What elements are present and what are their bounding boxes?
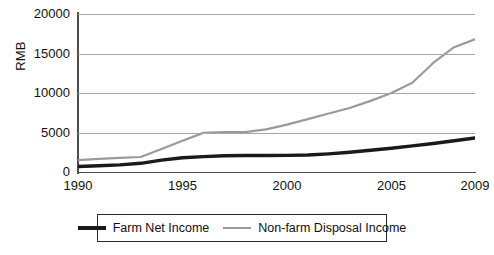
y-axis-tick-labels: 20000150001000050000: [14, 0, 70, 200]
y-tick-label: 20000: [18, 9, 70, 19]
x-tick-label: 2005: [361, 178, 421, 193]
gridline: [78, 133, 475, 134]
legend-label: Non-farm Disposal Income: [258, 221, 406, 235]
chart-legend: Farm Net Income Non-farm Disposal Income: [97, 214, 387, 242]
x-tick-label: 2000: [257, 178, 317, 193]
dark-line-swatch-icon: [78, 226, 106, 229]
series-line: [78, 138, 475, 166]
gray-line-swatch-icon: [223, 227, 251, 229]
y-tick-label: 0: [18, 167, 70, 177]
gridline: [78, 54, 475, 55]
x-tick-label: 2009: [445, 178, 494, 193]
y-tick-label: 10000: [18, 88, 70, 98]
series-line: [78, 39, 475, 160]
x-axis-line: [77, 172, 476, 173]
y-tick-label: 5000: [18, 128, 70, 138]
x-tick-label: 1995: [152, 178, 212, 193]
legend-item: Non-farm Disposal Income: [223, 221, 406, 235]
x-tick-label: 1990: [48, 178, 108, 193]
legend-label: Farm Net Income: [113, 221, 210, 235]
gridline: [78, 93, 475, 94]
legend-item: Farm Net Income: [78, 221, 210, 235]
y-tick-label: 15000: [18, 49, 70, 59]
plot-area: [78, 14, 475, 172]
gridline: [78, 14, 475, 15]
